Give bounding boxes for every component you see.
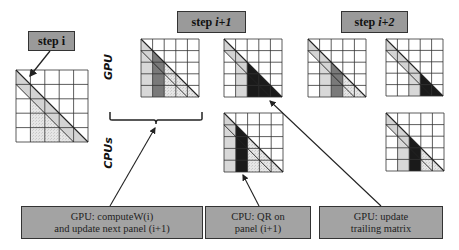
matrices-group [16,39,444,172]
gpu-step-i1-panel-matrix [141,39,199,97]
step-i2-index: i+2 [378,15,394,30]
cpu-qr-note: CPU: QR on panel (i+1) [205,206,311,239]
gpu-update-note-line2: trailing matrix [351,223,411,235]
arrow-gpu-update [270,101,381,206]
gpu-step-i2-trailing-matrix [386,39,443,96]
cpu-step-i1-matrix [224,113,283,172]
step-i-label: step i [28,31,75,51]
arrow-step-i [30,51,50,76]
brace-grouping [110,112,202,124]
gpu-compute-note-line1: GPU: computeW(i) [54,211,170,223]
step-i-prefix: step [38,34,59,49]
cpu-qr-note-line2: panel (i+1) [231,223,285,235]
cpu-qr-note-line1: CPU: QR on [231,211,285,223]
step-i-index: i [62,34,65,49]
gpu-compute-note-line2: and update next panel (i+1) [54,223,170,235]
step-i1-prefix: step [192,15,213,30]
step-i1-index: i+1 [215,15,231,30]
gpu-update-note: GPU: update trailing matrix [319,206,443,239]
cpu-row-label: CPUs [102,136,116,170]
cpu-step-i2-matrix [386,113,444,171]
step-i2-label: step i+2 [341,11,408,33]
step-i1-label: step i+1 [177,11,246,33]
gpu-compute-note: GPU: computeW(i) and update next panel (… [21,206,203,239]
step-i2-prefix: step [355,15,376,30]
arrow-gpu-compute [110,128,155,206]
step-i-matrix [16,70,88,142]
gpu-step-i1-trailing-matrix [224,39,282,97]
arrow-cpu-qr [243,175,259,206]
gpu-update-note-line1: GPU: update [351,211,411,223]
gpu-row-label: GPU [102,54,116,80]
gpu-step-i2-panel-matrix [308,39,366,97]
